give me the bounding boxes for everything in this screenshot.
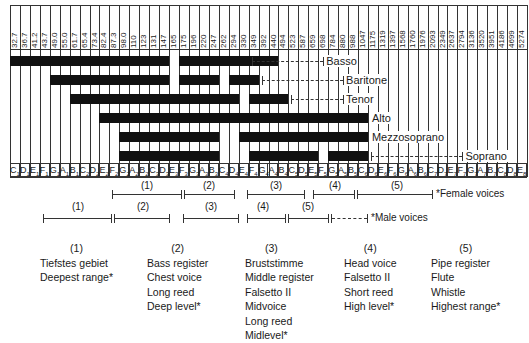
frequency-tick: 659 <box>308 6 318 48</box>
register-cap <box>313 190 314 199</box>
column-line: Deepest range* <box>40 270 113 285</box>
voice-range-chart: 32.7C136.7D141.2E143.7F149.0G155.0A161.7… <box>0 0 529 180</box>
column-line: Head voice <box>344 256 397 271</box>
range-extension-dashed <box>291 99 343 100</box>
male-register-1-line <box>43 218 112 219</box>
frequency-tick: 131 <box>149 6 159 48</box>
frequency-tick: 98.0 <box>119 6 129 48</box>
note-tick: G4 <box>259 164 269 176</box>
note-tick: B5 <box>348 164 358 176</box>
grid-line <box>527 5 528 177</box>
note-tick: C3 <box>149 164 159 176</box>
frequency-tick: 2794 <box>457 6 467 48</box>
note-tick: C5 <box>288 164 298 176</box>
column-line: Chest voice <box>147 270 208 285</box>
column-line: Midlevel* <box>245 328 314 343</box>
frequency-tick: 1175 <box>368 6 378 48</box>
frequency-tick: 392 <box>259 6 269 48</box>
note-tick: C4 <box>219 164 229 176</box>
register-cap <box>432 190 433 199</box>
extension-end-tick <box>343 76 344 85</box>
register-cap <box>112 190 113 199</box>
female-register-4-label: (4) <box>320 180 350 191</box>
frequency-tick: 65.4 <box>80 6 90 48</box>
frequency-tick: 32.7 <box>10 6 20 48</box>
range-bar-alto <box>298 113 368 123</box>
range-extension-dashed <box>252 61 324 62</box>
female-register-5-line <box>357 194 432 195</box>
range-bar-baritone <box>50 75 169 85</box>
note-tick: E5 <box>308 164 318 176</box>
range-bar-baritone <box>229 75 259 85</box>
column-line: Short reed <box>344 285 397 300</box>
female-register-3-line <box>247 194 304 195</box>
frequency-tick: 2637 <box>447 6 457 48</box>
range-bar-tenor <box>189 94 239 104</box>
frequency-tick: 294 <box>229 6 239 48</box>
register-cap <box>43 214 44 223</box>
note-tick: D8 <box>507 164 517 176</box>
female-register-1-label: (1) <box>132 180 162 191</box>
note-tick: B4 <box>278 164 288 176</box>
frequency-tick: 1319 <box>378 6 388 48</box>
register-cap <box>183 214 184 223</box>
column-line: Deep level* <box>147 299 208 314</box>
note-tick: D3 <box>159 164 169 176</box>
voice-label-baritone: Baritone <box>345 74 388 86</box>
note-tick: A6 <box>408 164 418 176</box>
frequency-tick: 55.0 <box>60 6 70 48</box>
column-heading: (5) <box>431 241 500 256</box>
note-tick: C8 <box>497 164 507 176</box>
frequency-tick: 3951 <box>487 6 497 48</box>
note-tick: F1 <box>40 164 50 176</box>
note-tick: F7 <box>457 164 467 176</box>
frequency-tick: 494 <box>278 6 288 48</box>
frequency-tick: 698 <box>318 6 328 48</box>
range-bar-tenor <box>249 94 289 104</box>
register-column-5: (5) Pipe register Flute Whistle Highest … <box>431 241 500 314</box>
note-tick: D5 <box>298 164 308 176</box>
extension-end-tick <box>462 152 463 161</box>
female-register-1-line <box>112 194 182 195</box>
note-tick: A7 <box>477 164 487 176</box>
register-column-3: (3) Bruststimme Middle register Falsetto… <box>245 241 314 343</box>
female-voices-legend: *Female voices <box>436 188 504 199</box>
male-voices-legend: *Male voices <box>371 212 428 223</box>
extension-end-tick <box>343 95 344 104</box>
note-tick: E4 <box>239 164 249 176</box>
frequency-tick: 73.4 <box>90 6 100 48</box>
register-cap <box>234 190 235 199</box>
column-line: Whistle <box>431 285 500 300</box>
frequency-tick: 349 <box>249 6 259 48</box>
range-bar-tenor <box>70 94 189 104</box>
voice-label-soprano: Soprano <box>464 150 508 162</box>
register-cap <box>247 214 248 223</box>
female-register-2-line <box>184 194 234 195</box>
voice-label-alto: Alto <box>371 112 392 124</box>
register-cap <box>169 214 170 223</box>
male-register-4-label: (4) <box>248 201 278 212</box>
frequency-tick: 2349 <box>438 6 448 48</box>
frequency-tick: 3520 <box>477 6 487 48</box>
note-tick: C1 <box>10 164 20 176</box>
note-tick: G7 <box>467 164 477 176</box>
note-tick: D7 <box>438 164 448 176</box>
frequency-tick: 147 <box>159 6 169 48</box>
note-tick: C7 <box>428 164 438 176</box>
column-line: Midvoice <box>245 299 314 314</box>
note-tick: A5 <box>338 164 348 176</box>
frequency-tick: 41.2 <box>30 6 40 48</box>
note-tick: G6 <box>398 164 408 176</box>
range-bar-basso <box>219 56 249 66</box>
male-register-5-extension <box>332 218 367 219</box>
note-tick: E8 <box>517 164 527 176</box>
note-tick: A4 <box>269 164 279 176</box>
range-bar-soprano <box>328 151 368 161</box>
frequency-tick: 1047 <box>358 6 368 48</box>
note-tick: B1 <box>70 164 80 176</box>
male-register-3-label: (3) <box>196 201 226 212</box>
note-tick: G1 <box>50 164 60 176</box>
range-bar-mezzosoprano <box>308 132 368 142</box>
frequency-tick: 1397 <box>388 6 398 48</box>
frequency-tick: 247 <box>209 6 219 48</box>
